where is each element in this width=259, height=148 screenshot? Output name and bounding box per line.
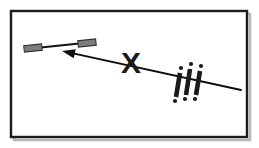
x-mark-glyph: X [121, 46, 141, 79]
exclamation-dot-bottom-2 [183, 97, 187, 101]
illustration-svg: Warning diagram: bar object, leftward ar… [0, 0, 259, 148]
exclamation-dot-top-3 [199, 64, 203, 68]
exclamation-dot-top-2 [189, 62, 193, 66]
exclamation-dot-top-1 [179, 66, 183, 70]
exclamation-dot-bottom-1 [173, 99, 177, 103]
figure-canvas: Warning diagram: bar object, leftward ar… [0, 0, 259, 148]
bar-end-block-right [78, 39, 97, 47]
exclamation-dot-bottom-3 [193, 97, 197, 101]
bar-end-block-left [24, 44, 43, 52]
